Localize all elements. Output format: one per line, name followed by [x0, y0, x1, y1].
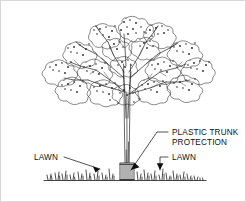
plastic-trunk-protection — [120, 163, 135, 180]
callout-lawn-right: LAWN — [157, 153, 196, 170]
plastic-trunk-protection-label-line2: PROTECTION — [172, 138, 227, 147]
lawn-grass-left — [47, 169, 114, 180]
lawn-right-arrowhead — [157, 163, 164, 170]
plastic-trunk-protection-label-line1: PLASTIC TRUNK — [172, 128, 239, 137]
canopy-foliage-outlines — [42, 16, 215, 107]
lawn-left-arrowhead — [93, 167, 100, 173]
lawn-right-label: LAWN — [172, 153, 196, 162]
callout-plastic-trunk-protection: PLASTIC TRUNK PROTECTION — [131, 128, 239, 170]
lawn-grass-right — [137, 169, 203, 180]
tree-protection-detail-drawing: LAWN PLASTIC TRUNK PROTECTION LAWN — [0, 0, 246, 202]
detail-drawing-canvas: LAWN PLASTIC TRUNK PROTECTION LAWN — [0, 0, 246, 202]
lawn-left-label: LAWN — [34, 153, 58, 162]
callout-lawn-left: LAWN — [34, 153, 100, 173]
tree-canopy — [42, 16, 215, 118]
